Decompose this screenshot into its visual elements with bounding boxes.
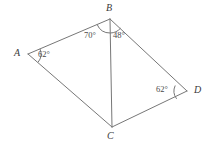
segment-CA: [28, 54, 112, 127]
angle-ABC-label: 70°: [84, 31, 96, 40]
vertex-label-C: C: [107, 131, 114, 141]
vertex-label-D: D: [194, 85, 201, 95]
angle-A-label: 62°: [38, 50, 50, 59]
angle-CBD-label: 48°: [113, 31, 125, 40]
geometry-figure: ABCD 62°70°48°62°: [0, 0, 212, 147]
angle-D-label: 62°: [156, 85, 168, 94]
vertex-label-A: A: [14, 48, 20, 58]
edges-group: [28, 19, 187, 127]
diagonal-BC: [110, 19, 112, 127]
angle-ABC-arc: [97, 24, 110, 33]
segment-DC: [112, 91, 187, 127]
figure-canvas: [0, 0, 212, 147]
vertex-label-B: B: [106, 3, 112, 13]
